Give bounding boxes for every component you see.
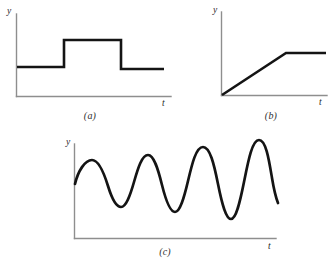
chart-c-sinusoid-curve	[75, 140, 278, 219]
chart-a-pulse-curve	[17, 40, 164, 69]
chart-b-y-axis-label: y	[212, 5, 218, 15]
chart-a-y-axis-label: y	[6, 6, 12, 16]
chart-a-caption: (a)	[70, 110, 110, 121]
chart-b-caption: (b)	[251, 110, 291, 121]
figure-sheet: y t (a) y t (b) y t	[0, 0, 332, 266]
chart-c-y-axis-label: y	[65, 137, 71, 147]
chart-c-caption: (c)	[145, 246, 185, 257]
chart-c-x-axis-label: t	[268, 241, 271, 251]
chart-a-x-axis-label: t	[162, 98, 165, 108]
chart-b-ramp-curve	[222, 53, 326, 95]
chart-b-x-axis-label: t	[319, 97, 322, 107]
